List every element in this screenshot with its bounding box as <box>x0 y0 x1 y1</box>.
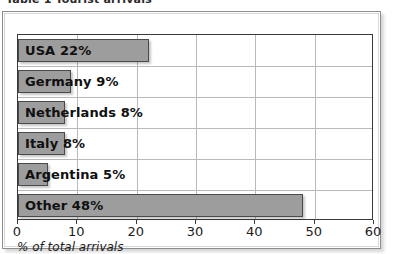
x-tick-label: 40 <box>234 224 274 239</box>
plot-area: USA 22%Germany 9%Netherlands 8%Italy 8%A… <box>17 34 373 220</box>
bar-label-netherlands: Netherlands 8% <box>25 101 143 124</box>
figure-caption: Table 1 Tourist arrivals <box>6 0 266 5</box>
figure-frame: USA 22%Germany 9%Netherlands 8%Italy 8%A… <box>2 11 381 249</box>
bar-label-usa: USA 22% <box>25 39 91 62</box>
x-axis-title: % of total arrivals <box>17 240 123 254</box>
bar-row: Netherlands 8% <box>18 97 372 128</box>
bar-label-germany: Germany 9% <box>25 70 119 93</box>
x-tick-label: 50 <box>294 224 334 239</box>
bar-label-italy: Italy 8% <box>25 132 85 155</box>
bar-row: USA 22% <box>18 35 372 66</box>
x-tick-label: 0 <box>0 224 37 239</box>
bar-label-other: Other 48% <box>25 194 103 217</box>
figure-root: Table 1 Tourist arrivals USA 22%Germany … <box>0 0 393 254</box>
bar-row: Germany 9% <box>18 66 372 97</box>
x-tick-label: 20 <box>116 224 156 239</box>
bar-label-argentina: Argentina 5% <box>25 163 125 186</box>
figure-caption-text: Table 1 Tourist arrivals <box>6 0 266 5</box>
x-tick-label: 60 <box>353 224 393 239</box>
x-tick-label: 10 <box>56 224 96 239</box>
x-tick-label: 30 <box>175 224 215 239</box>
bar-row: Italy 8% <box>18 128 372 159</box>
x-axis: 0102030405060 <box>17 220 373 242</box>
bar-row: Argentina 5% <box>18 159 372 190</box>
bar-row: Other 48% <box>18 190 372 221</box>
